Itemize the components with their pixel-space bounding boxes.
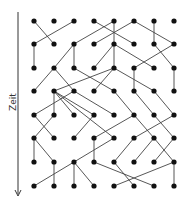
- node: [151, 135, 156, 140]
- node: [111, 18, 116, 23]
- node: [131, 112, 136, 117]
- edge: [34, 138, 54, 162]
- node: [71, 41, 76, 46]
- node: [71, 88, 76, 93]
- causal-grid-diagram: [0, 0, 188, 203]
- node: [91, 41, 96, 46]
- edge: [154, 91, 174, 115]
- node: [131, 135, 136, 140]
- node: [111, 41, 116, 46]
- edge: [134, 115, 154, 138]
- node: [91, 88, 96, 93]
- edge: [114, 91, 134, 115]
- node: [171, 159, 176, 164]
- node: [171, 41, 176, 46]
- node: [91, 65, 96, 70]
- edge: [34, 68, 54, 91]
- node: [171, 135, 176, 140]
- node: [91, 18, 96, 23]
- edge: [74, 68, 114, 91]
- node: [151, 159, 156, 164]
- node: [151, 112, 156, 117]
- node: [171, 183, 176, 188]
- node: [151, 65, 156, 70]
- edge: [54, 91, 94, 115]
- node: [91, 112, 96, 117]
- node: [31, 65, 36, 70]
- node: [171, 65, 176, 70]
- edge: [54, 44, 74, 68]
- node: [111, 88, 116, 93]
- node: [51, 88, 56, 93]
- node: [51, 183, 56, 188]
- edge: [134, 91, 154, 115]
- node: [131, 159, 136, 164]
- edge: [154, 115, 174, 138]
- time-axis-label: Zeit: [3, 92, 23, 112]
- node: [111, 112, 116, 117]
- node: [151, 18, 156, 23]
- edge: [134, 44, 174, 68]
- node: [131, 65, 136, 70]
- edge: [114, 44, 154, 68]
- node: [171, 18, 176, 23]
- edge: [134, 115, 174, 138]
- node: [71, 65, 76, 70]
- edge: [74, 162, 94, 186]
- node: [71, 183, 76, 188]
- node: [51, 65, 56, 70]
- edge: [94, 44, 114, 68]
- node: [111, 183, 116, 188]
- node: [31, 112, 36, 117]
- node: [131, 18, 136, 23]
- node: [131, 88, 136, 93]
- edge: [54, 68, 114, 91]
- node: [31, 18, 36, 23]
- node: [71, 135, 76, 140]
- node: [91, 135, 96, 140]
- node: [31, 159, 36, 164]
- node: [51, 41, 56, 46]
- node: [31, 183, 36, 188]
- node: [151, 41, 156, 46]
- edge: [114, 138, 134, 162]
- edge: [34, 21, 74, 44]
- node: [171, 88, 176, 93]
- edge: [34, 21, 54, 44]
- edge: [54, 91, 74, 115]
- node: [71, 159, 76, 164]
- node: [111, 65, 116, 70]
- node: [111, 159, 116, 164]
- node: [31, 88, 36, 93]
- node: [151, 88, 156, 93]
- node: [71, 18, 76, 23]
- node: [151, 183, 156, 188]
- edge: [74, 115, 94, 138]
- node: [31, 41, 36, 46]
- node: [51, 135, 56, 140]
- edge: [154, 44, 174, 68]
- node: [51, 18, 56, 23]
- node: [131, 183, 136, 188]
- node: [111, 135, 116, 140]
- edge: [74, 21, 114, 44]
- node: [91, 183, 96, 188]
- node: [51, 112, 56, 117]
- node: [91, 159, 96, 164]
- node: [171, 112, 176, 117]
- node: [31, 135, 36, 140]
- node: [131, 41, 136, 46]
- node: [71, 112, 76, 117]
- edge: [134, 138, 154, 162]
- node: [51, 159, 56, 164]
